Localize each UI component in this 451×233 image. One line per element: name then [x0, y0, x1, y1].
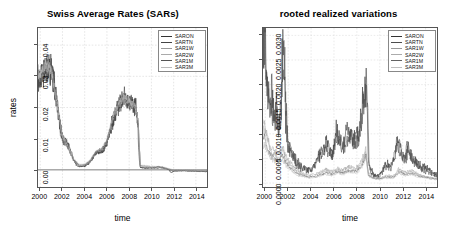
x-tick-mark	[426, 188, 427, 191]
y-tick-label: 0.03	[42, 75, 49, 89]
legend-line-swatch	[161, 48, 172, 49]
y-tick-label: 0.01	[42, 139, 49, 153]
x-tick-mark	[356, 188, 357, 191]
legend-line-swatch	[391, 42, 402, 43]
y-tick-label: 0.0015	[275, 109, 282, 130]
y-tick-mark	[259, 84, 262, 85]
y-tick-label: 0.0025	[275, 59, 282, 80]
y-tick-mark	[259, 184, 262, 185]
y-tick-label: 0.0010	[275, 134, 282, 155]
y-tick-mark	[259, 134, 262, 135]
x-tick-label: 2014	[412, 193, 440, 200]
legend-right: SARONSARTNSAR1WSAR2WSAR1MSAR3M	[388, 30, 436, 72]
y-tick-mark	[259, 159, 262, 160]
y-tick-mark	[34, 170, 37, 171]
y-tick-label: 0.0005	[275, 159, 282, 180]
x-tick-mark	[129, 188, 130, 191]
y-tick-label: 0.04	[42, 44, 49, 58]
y-tick-label: 0.0000	[275, 184, 282, 205]
panel-left-title: Swiss Average Rates (SARs)	[0, 8, 226, 19]
y-axis-label-left: rates	[8, 98, 18, 117]
legend-line-swatch	[161, 54, 172, 55]
y-tick-mark	[34, 44, 37, 45]
chart-panel-right: rooted realized variations 2000200220042…	[226, 0, 451, 233]
y-tick-mark	[34, 139, 37, 140]
y-tick-mark	[34, 75, 37, 76]
legend-label: SAR3M	[175, 64, 193, 70]
legend-line-swatch	[391, 48, 402, 49]
legend-item: SAR3M	[391, 64, 433, 70]
legend-line-swatch	[161, 42, 172, 43]
legend-line-swatch	[391, 67, 402, 68]
x-tick-mark	[380, 188, 381, 191]
panel-right-title: rooted realized variations	[226, 8, 451, 19]
legend-line-swatch	[391, 54, 402, 55]
x-tick-label: 2014	[183, 193, 211, 200]
x-tick-mark	[310, 188, 311, 191]
x-tick-mark	[39, 188, 40, 191]
legend-line-swatch	[391, 36, 402, 37]
y-tick-mark	[259, 59, 262, 60]
x-tick-mark	[287, 188, 288, 191]
y-tick-mark	[34, 107, 37, 108]
y-tick-label: 0.0020	[275, 84, 282, 105]
legend-label: SAR3M	[405, 64, 423, 70]
x-tick-mark	[106, 188, 107, 191]
x-axis-label-right: time	[262, 213, 438, 223]
x-tick-mark	[333, 188, 334, 191]
legend-line-swatch	[161, 60, 172, 61]
x-tick-mark	[151, 188, 152, 191]
legend-line-swatch	[161, 67, 172, 68]
legend-line-swatch	[391, 60, 402, 61]
legend-left: SARONSARTNSAR1WSAR2WSAR1MSAR3M	[158, 30, 206, 72]
x-tick-mark	[61, 188, 62, 191]
legend-item: SAR3M	[161, 64, 203, 70]
legend-line-swatch	[161, 36, 172, 37]
y-tick-label: 0.02	[42, 107, 49, 121]
y-tick-mark	[259, 34, 262, 35]
x-tick-mark	[196, 188, 197, 191]
y-tick-label: 0.0030	[275, 34, 282, 55]
x-tick-mark	[174, 188, 175, 191]
x-tick-mark	[264, 188, 265, 191]
chart-panel-left: Swiss Average Rates (SARs) 2000200220042…	[0, 0, 226, 233]
y-tick-mark	[259, 109, 262, 110]
x-tick-mark	[403, 188, 404, 191]
figure-container: Swiss Average Rates (SARs) 2000200220042…	[0, 0, 451, 233]
x-tick-mark	[84, 188, 85, 191]
y-tick-label: 0.00	[42, 170, 49, 184]
x-axis-label-left: time	[37, 213, 208, 223]
